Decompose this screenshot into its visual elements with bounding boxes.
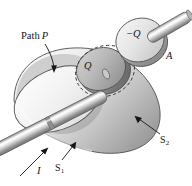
label-charge-negative-q: −Q xyxy=(126,29,141,40)
label-plate-area-a: A xyxy=(166,51,172,62)
label-path-symbol: P xyxy=(40,30,48,41)
label-current-i: I xyxy=(37,166,41,177)
current-direction-arrow-icon xyxy=(20,148,48,176)
label-path-word: Path xyxy=(21,30,40,41)
label-s1-subscript: 1 xyxy=(61,167,65,175)
label-surface-s2: S2 xyxy=(160,135,169,145)
figure-illustration xyxy=(0,0,192,186)
label-s2-letter: S xyxy=(160,134,166,145)
label-charge-q: Q xyxy=(84,61,92,72)
physics-figure: PathP Q −Q A I S1 S2 xyxy=(0,0,192,186)
label-surface-s1: S1 xyxy=(55,163,64,173)
label-s1-letter: S xyxy=(55,162,61,173)
label-path-p: PathP xyxy=(21,31,48,42)
label-s2-subscript: 2 xyxy=(166,139,170,147)
